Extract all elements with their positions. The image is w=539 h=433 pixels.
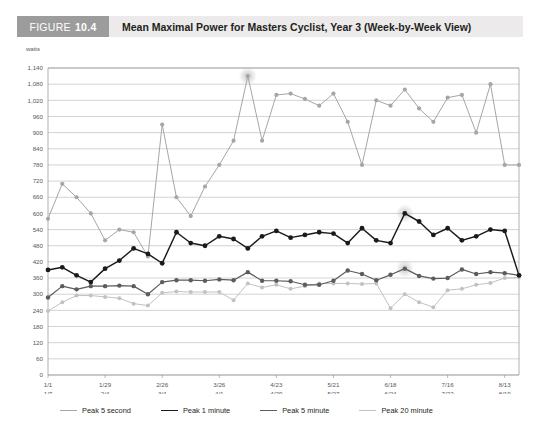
data-point-marker — [317, 104, 321, 108]
data-point-marker — [431, 305, 435, 309]
x-axis-tick-label-end: 5/27 — [327, 390, 340, 395]
data-point-marker — [460, 287, 464, 291]
series-line-peak-1-minute — [48, 213, 519, 282]
data-point-marker — [460, 267, 464, 271]
x-axis-tick-label-end: 4/1 — [215, 390, 224, 395]
data-point-marker — [189, 290, 193, 294]
data-point-marker — [46, 309, 50, 313]
data-point-marker — [246, 281, 250, 285]
data-point-marker — [389, 306, 393, 310]
data-point-marker — [303, 283, 307, 287]
data-point-marker — [46, 217, 50, 221]
data-point-marker — [146, 304, 150, 308]
data-point-marker — [274, 229, 279, 234]
data-point-marker — [388, 104, 392, 108]
data-point-marker — [231, 237, 236, 242]
legend-line-swatch — [161, 410, 178, 411]
data-point-marker — [60, 300, 64, 304]
data-point-marker — [502, 229, 507, 234]
data-point-marker — [488, 270, 492, 274]
data-point-marker — [317, 230, 322, 235]
data-point-marker — [103, 284, 107, 288]
data-point-marker — [74, 273, 79, 278]
data-point-marker — [360, 163, 364, 167]
x-axis-tick-label-end: 7/22 — [442, 390, 455, 395]
y-axis-tick-label: 1,140 — [28, 64, 44, 71]
data-point-marker — [189, 214, 193, 218]
data-point-marker — [346, 120, 350, 124]
data-point-marker — [88, 280, 93, 285]
legend-item[interactable]: Peak 5 second — [60, 406, 131, 415]
data-point-marker — [103, 266, 108, 271]
data-point-marker — [474, 272, 478, 276]
x-axis-tick-label-end: 3/4 — [158, 390, 167, 395]
data-point-marker — [346, 268, 350, 272]
data-point-marker — [174, 195, 178, 199]
data-point-marker — [131, 246, 136, 251]
data-point-marker — [174, 230, 179, 235]
data-point-marker — [288, 279, 292, 283]
data-point-marker — [46, 268, 51, 273]
y-axis-tick-label: 240 — [33, 307, 44, 314]
data-point-marker — [174, 290, 178, 294]
x-axis-tick-label-end: 8/19 — [499, 390, 512, 395]
data-point-marker — [431, 276, 435, 280]
legend-item[interactable]: Peak 1 minute — [161, 406, 230, 415]
data-point-marker — [445, 276, 449, 280]
data-point-marker — [46, 295, 50, 299]
data-point-marker — [260, 234, 265, 239]
y-axis-tick-label: 900 — [33, 129, 44, 136]
data-point-marker — [160, 280, 164, 284]
data-point-marker — [388, 241, 393, 246]
data-point-marker — [517, 163, 521, 167]
legend-item-label: Peak 5 second — [82, 406, 131, 415]
data-point-marker — [232, 298, 236, 302]
data-point-marker — [89, 294, 93, 298]
data-point-marker — [274, 283, 278, 287]
data-point-marker — [474, 131, 478, 135]
data-point-marker — [260, 139, 264, 143]
y-axis-tick-label: 300 — [33, 290, 44, 297]
y-axis-tick-label: 120 — [33, 339, 44, 346]
data-point-marker — [217, 163, 221, 167]
y-axis-tick-label: 600 — [33, 210, 44, 217]
data-point-marker — [417, 300, 421, 304]
data-point-marker — [360, 272, 364, 276]
figure-tag-word: FIGURE — [29, 21, 70, 33]
data-point-marker — [60, 182, 64, 186]
data-point-marker — [460, 238, 465, 243]
x-axis-tick-label-end: 2/4 — [101, 390, 110, 395]
chart-area: watts 0601201802403003604204805406006607… — [0, 44, 539, 394]
y-axis-tick-label: 660 — [33, 193, 44, 200]
y-axis-tick-label: 720 — [33, 177, 44, 184]
data-point-marker — [160, 291, 164, 295]
legend-item[interactable]: Peak 20 minute — [359, 406, 432, 415]
data-point-marker — [146, 251, 151, 256]
x-axis-tick-label-start: 2/26 — [156, 381, 169, 388]
data-point-marker — [346, 281, 350, 285]
data-point-marker — [374, 278, 378, 282]
data-point-marker — [117, 296, 121, 300]
figure-container: FIGURE10.4 Mean Maximal Power for Master… — [0, 0, 539, 433]
data-point-marker — [374, 238, 379, 243]
y-axis-tick-label: 480 — [33, 242, 44, 249]
data-point-marker — [160, 122, 164, 126]
legend-item[interactable]: Peak 5 minute — [260, 406, 329, 415]
x-axis-tick-label-start: 7/16 — [442, 381, 455, 388]
x-axis-tick-label-end: 6/24 — [385, 390, 398, 395]
figure-title: Mean Maximal Power for Masters Cyclist, … — [109, 16, 523, 37]
data-point-marker — [274, 93, 278, 97]
data-point-marker — [345, 241, 350, 246]
data-point-marker — [402, 211, 407, 216]
data-point-marker — [103, 238, 107, 242]
data-point-marker — [303, 233, 308, 238]
data-point-marker — [303, 97, 307, 101]
x-axis-tick-label-start: 3/26 — [213, 381, 226, 388]
data-point-marker — [203, 243, 208, 248]
y-axis-tick-label: 960 — [33, 113, 44, 120]
data-point-marker — [146, 292, 150, 296]
data-point-marker — [403, 266, 407, 270]
x-axis-tick-label-start: 8/13 — [499, 381, 512, 388]
y-axis-tick-label: 360 — [33, 274, 44, 281]
data-point-marker — [160, 261, 165, 266]
